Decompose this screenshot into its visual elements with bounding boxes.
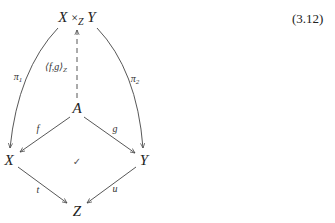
pullback-left: X bbox=[58, 9, 67, 25]
label-pi2: π2 bbox=[131, 74, 140, 86]
arrow-g bbox=[84, 117, 135, 153]
equation-number: (3.12) bbox=[292, 11, 323, 27]
node-X: X bbox=[4, 153, 13, 168]
pullback-sub: Z bbox=[78, 16, 84, 27]
node-A: A bbox=[72, 101, 81, 116]
node-Y: Y bbox=[140, 153, 148, 168]
node-pullback: X ×Z Y bbox=[58, 10, 95, 27]
arrow-pi2 bbox=[97, 28, 143, 148]
pairing-sub: Z bbox=[63, 66, 67, 74]
pairing-text: ⟨f,g⟩ bbox=[45, 61, 63, 72]
label-g: g bbox=[113, 124, 118, 134]
arrow-t bbox=[18, 167, 67, 203]
pullback-right: Y bbox=[87, 9, 95, 25]
label-pi1: π1 bbox=[14, 72, 23, 84]
arrow-f bbox=[20, 117, 70, 152]
label-u: u bbox=[113, 184, 118, 194]
label-t: t bbox=[37, 185, 40, 195]
label-f: f bbox=[37, 124, 40, 134]
diagram-arrows bbox=[0, 0, 335, 223]
node-Z: Z bbox=[73, 204, 81, 219]
pi1-sub: 1 bbox=[19, 76, 23, 84]
pi2-sub: 2 bbox=[136, 78, 140, 86]
arrow-u bbox=[87, 167, 136, 203]
label-pairing: ⟨f,g⟩Z bbox=[45, 62, 67, 74]
times-symbol: × bbox=[71, 11, 78, 25]
commutes-check-icon: ✓ bbox=[73, 156, 81, 167]
